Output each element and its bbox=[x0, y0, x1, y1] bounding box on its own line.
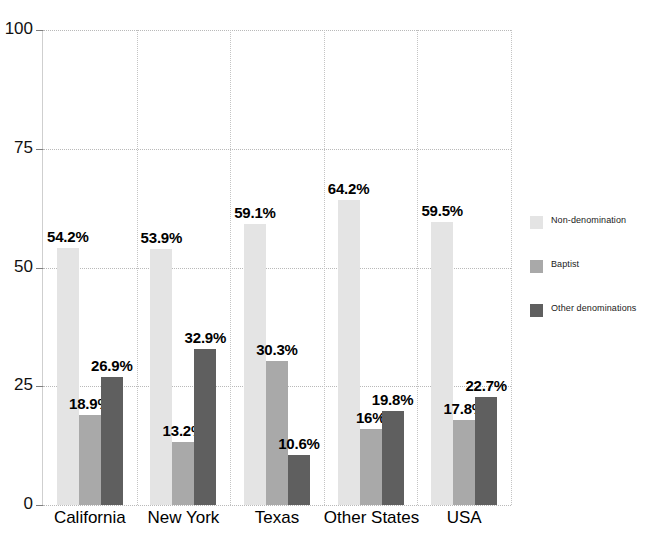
legend-swatch bbox=[530, 304, 543, 317]
bar-value-label: 59.1% bbox=[234, 204, 276, 221]
y-axis-tick-label: 100 bbox=[0, 19, 33, 39]
legend-label: Non-denomination bbox=[551, 215, 626, 225]
y-axis-tick bbox=[36, 149, 43, 150]
legend-item[interactable]: Baptist bbox=[530, 258, 648, 302]
y-axis-tick-label: 75 bbox=[0, 138, 33, 158]
plot-right-border bbox=[511, 30, 512, 505]
bar-group: 53.9%13.2%32.9% bbox=[137, 30, 231, 505]
bar[interactable]: 13.2% bbox=[172, 442, 194, 505]
legend-label: Baptist bbox=[551, 259, 579, 269]
bar[interactable]: 32.9% bbox=[194, 349, 216, 505]
y-axis-tick bbox=[36, 386, 43, 387]
bar-value-label: 53.9% bbox=[141, 229, 183, 246]
x-axis-label: Other States bbox=[324, 508, 418, 528]
bar[interactable]: 53.9% bbox=[150, 249, 172, 505]
bar[interactable]: 26.9% bbox=[101, 377, 123, 505]
bar-value-label: 64.2% bbox=[328, 180, 370, 197]
bar[interactable]: 16% bbox=[360, 429, 382, 505]
y-axis-tick bbox=[36, 268, 43, 269]
y-axis-tick-label: 25 bbox=[0, 375, 33, 395]
y-axis-tick bbox=[36, 505, 43, 506]
bar[interactable]: 64.2% bbox=[338, 200, 360, 505]
bar[interactable]: 30.3% bbox=[266, 361, 288, 505]
bar[interactable]: 59.5% bbox=[431, 222, 453, 505]
bar-group: 54.2%18.9%26.9% bbox=[43, 30, 137, 505]
legend-label: Other denominations bbox=[551, 303, 636, 313]
bar[interactable]: 22.7% bbox=[475, 397, 497, 505]
bar[interactable]: 10.6% bbox=[288, 455, 310, 505]
bar-value-label: 54.2% bbox=[47, 228, 89, 245]
bar-value-label: 10.6% bbox=[278, 435, 320, 452]
bar-value-label: 26.9% bbox=[91, 357, 133, 374]
x-axis-label: New York bbox=[137, 508, 231, 528]
bar[interactable]: 18.9% bbox=[79, 415, 101, 505]
legend-item[interactable]: Non-denomination bbox=[530, 214, 648, 258]
x-axis-label: California bbox=[43, 508, 137, 528]
x-axis-label: Texas bbox=[230, 508, 324, 528]
bar-group: 59.5%17.8%22.7% bbox=[417, 30, 511, 505]
bar-value-label: 59.5% bbox=[421, 202, 463, 219]
legend: Non-denominationBaptistOther denominatio… bbox=[530, 214, 648, 346]
bar[interactable]: 19.8% bbox=[382, 411, 404, 505]
y-axis-tick-label: 0 bbox=[0, 494, 33, 514]
bar-value-label: 22.7% bbox=[465, 377, 507, 394]
y-axis-tick bbox=[36, 30, 43, 31]
bar-group: 59.1%30.3%10.6% bbox=[230, 30, 324, 505]
bar[interactable]: 59.1% bbox=[244, 224, 266, 505]
bar-chart: 0255075100 54.2%18.9%26.9%53.9%13.2%32.9… bbox=[0, 0, 648, 537]
bar-value-label: 32.9% bbox=[185, 329, 227, 346]
x-axis-label: USA bbox=[417, 508, 511, 528]
legend-item[interactable]: Other denominations bbox=[530, 302, 648, 346]
legend-swatch bbox=[530, 216, 543, 229]
bar-value-label: 19.8% bbox=[372, 391, 414, 408]
bar-value-label: 30.3% bbox=[256, 341, 298, 358]
bar-group: 64.2%16%19.8% bbox=[324, 30, 418, 505]
bar[interactable]: 17.8% bbox=[453, 420, 475, 505]
bar[interactable]: 54.2% bbox=[57, 248, 79, 505]
y-axis-tick-label: 50 bbox=[0, 257, 33, 277]
plot-area: 54.2%18.9%26.9%53.9%13.2%32.9%59.1%30.3%… bbox=[43, 30, 511, 505]
legend-swatch bbox=[530, 260, 543, 273]
gridline-horizontal bbox=[43, 505, 511, 506]
